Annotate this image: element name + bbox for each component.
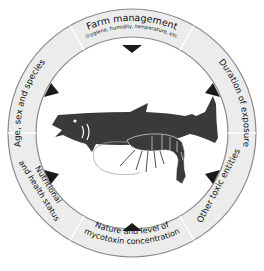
mycotoxin-factors-diagram: Farm management (hygiene, humidity, temp… [0,0,264,271]
